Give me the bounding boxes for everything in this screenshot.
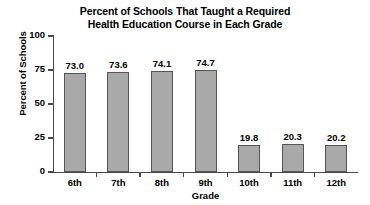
- chart-title: Percent of Schools That Taught a Require…: [55, 5, 315, 30]
- x-category-label-12th: 12th: [326, 177, 346, 188]
- bar-7th: 73.6: [107, 72, 129, 172]
- x-tick-6: [314, 172, 315, 177]
- x-category-label-8th: 8th: [155, 177, 169, 188]
- y-tick-0: 0: [48, 171, 54, 172]
- x-category-label-6th: 6th: [68, 177, 82, 188]
- y-tick-50: 50: [48, 103, 54, 104]
- bar-chart: Percent of Schools That Taught a Require…: [0, 0, 370, 205]
- x-category-label-9th: 9th: [198, 177, 212, 188]
- x-tick-1: [96, 172, 97, 177]
- chart-title-line-2: Health Education Course in Each Grade: [55, 18, 315, 31]
- bar-value-label-12th: 20.2: [327, 132, 346, 143]
- y-tick-100: 100: [48, 35, 54, 36]
- bar-value-label-8th: 74.1: [153, 58, 172, 69]
- x-axis-title: Grade: [53, 190, 358, 201]
- bar-12th: 20.2: [325, 145, 347, 172]
- x-tick-3: [183, 172, 184, 177]
- bar-6th: 73.0: [64, 73, 86, 172]
- bar-8th: 74.1: [151, 71, 173, 172]
- y-tick-label-100: 100: [29, 29, 45, 40]
- x-category-label-11th: 11th: [283, 177, 302, 188]
- x-tick-5: [270, 172, 271, 177]
- bar-11th: 20.3: [282, 144, 304, 172]
- y-axis-title: Percent of Schools: [17, 4, 28, 144]
- x-tick-2: [139, 172, 140, 177]
- y-tick-label-25: 25: [34, 131, 45, 142]
- x-category-label-10th: 10th: [239, 177, 259, 188]
- x-tick-4: [227, 172, 228, 177]
- y-tick-25: 25: [48, 137, 54, 138]
- y-tick-label-50: 50: [34, 97, 45, 108]
- chart-title-line-1: Percent of Schools That Taught a Require…: [55, 5, 315, 18]
- y-tick-75: 75: [48, 69, 54, 70]
- bar-9th: 74.7: [195, 70, 217, 172]
- y-tick-label-0: 0: [40, 165, 45, 176]
- bar-value-label-11th: 20.3: [283, 131, 302, 142]
- bar-value-label-10th: 19.8: [240, 132, 259, 143]
- bar-value-label-6th: 73.0: [66, 60, 85, 71]
- bar-value-label-7th: 73.6: [109, 59, 128, 70]
- bar-value-label-9th: 74.7: [196, 57, 215, 68]
- y-tick-label-75: 75: [34, 63, 45, 74]
- bar-10th: 19.8: [238, 145, 260, 172]
- x-category-label-7th: 7th: [111, 177, 125, 188]
